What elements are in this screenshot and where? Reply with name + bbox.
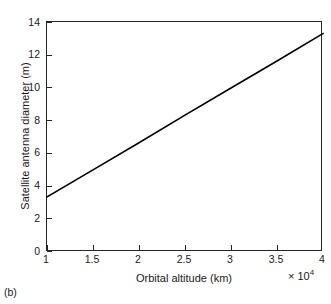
x-ticklabel-2: 2 xyxy=(118,254,158,265)
y-ticklabel-4: 4 xyxy=(12,180,40,191)
x-axis-exponent-power: 4 xyxy=(310,268,314,277)
x-ticklabel-1-5: 1.5 xyxy=(72,254,112,265)
data-line-svg xyxy=(47,22,323,252)
y-ticklabel-8: 8 xyxy=(12,115,40,126)
x-ticklabel-2-5: 2.5 xyxy=(164,254,204,265)
series-line-satellite-antenna-diameter xyxy=(47,34,323,197)
y-ticklabel-2: 2 xyxy=(12,213,40,224)
y-ticklabel-6: 6 xyxy=(12,147,40,158)
x-ticklabel-3: 3 xyxy=(210,254,250,265)
x-ticklabel-1: 1 xyxy=(26,254,66,265)
y-axis-label: Satellite antenna diameter (m) xyxy=(19,46,31,226)
x-ticklabel-3-5: 3.5 xyxy=(256,254,296,265)
figure-panel: Satellite antenna diameter (m) 0 2 4 6 8… xyxy=(0,0,331,304)
x-axis-exponent: × 104 xyxy=(288,270,314,282)
y-ticklabel-14: 14 xyxy=(12,17,40,28)
y-ticklabel-12: 12 xyxy=(12,49,40,60)
x-axis-exponent-base: × 10 xyxy=(288,270,310,282)
y-ticklabel-10: 10 xyxy=(12,82,40,93)
x-axis-label: Orbital altitude (km) xyxy=(46,272,322,284)
plot-area xyxy=(46,21,322,251)
subfigure-label: (b) xyxy=(4,286,17,298)
x-ticklabel-4: 4 xyxy=(302,254,331,265)
